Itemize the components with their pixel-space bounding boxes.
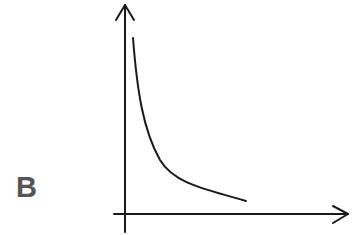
decreasing-curve <box>133 38 246 201</box>
graph-panel: B <box>0 0 361 235</box>
graph <box>0 0 361 235</box>
